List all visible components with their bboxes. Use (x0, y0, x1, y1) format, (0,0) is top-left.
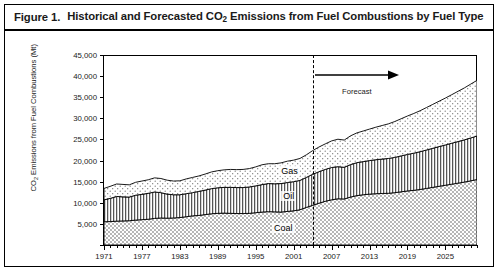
x-axis-tick (287, 245, 288, 248)
x-axis-tick (256, 245, 257, 250)
x-axis-tick (325, 245, 326, 248)
x-axis-tick-label: 2013 (361, 252, 378, 261)
y-axis-title: CO2 Emissions from Fuel Combustions (Mt) (29, 33, 39, 203)
x-axis-tick (180, 245, 181, 250)
x-axis-tick (294, 245, 295, 250)
forecast-annotation-label: Forecast (342, 87, 372, 96)
x-axis-tick (148, 245, 149, 248)
x-axis-tick (199, 245, 200, 248)
y-axis-tick-label: 30,000 (73, 114, 97, 123)
x-axis-tick (237, 245, 238, 248)
x-axis-tick (477, 245, 478, 248)
x-axis-tick (439, 245, 440, 248)
x-axis-tick (104, 245, 105, 250)
y-axis-tick-label: 45,000 (73, 51, 97, 60)
chart-area: CO2 Emissions from Fuel Combustions (Mt) (5, 31, 493, 266)
band-label-gas: Gas (279, 166, 300, 176)
x-axis-tick (161, 245, 162, 248)
figure-number: Figure 1. (14, 11, 60, 23)
x-axis-tick (319, 245, 320, 248)
x-axis-tick-label: 1971 (95, 252, 112, 261)
x-axis-tick (268, 245, 269, 248)
stacked-area-series (104, 55, 477, 245)
forecast-divider-line (313, 55, 314, 245)
x-axis-tick (142, 245, 143, 250)
y-axis-tick (100, 76, 104, 77)
y-axis-tick-label: 20,000 (73, 156, 97, 165)
x-axis-tick (300, 245, 301, 248)
x-axis-tick (433, 245, 434, 248)
x-axis-tick (363, 245, 364, 248)
x-axis-tick (155, 245, 156, 248)
x-axis-tick (464, 245, 465, 248)
x-axis-tick-label: 1983 (171, 252, 188, 261)
x-axis-tick (395, 245, 396, 248)
x-axis-tick (262, 245, 263, 248)
y-axis-tick (100, 118, 104, 119)
y-axis-tick (100, 97, 104, 98)
y-axis-tick-label: 35,000 (73, 93, 97, 102)
x-axis-tick (420, 245, 421, 248)
x-axis-tick (332, 245, 333, 250)
x-axis-tick (218, 245, 219, 250)
x-axis-tick (243, 245, 244, 248)
x-axis-tick (388, 245, 389, 248)
x-axis-tick (407, 245, 408, 250)
x-axis-tick (338, 245, 339, 248)
x-axis-tick (123, 245, 124, 248)
x-axis-tick (224, 245, 225, 248)
x-axis-tick (281, 245, 282, 248)
x-axis-tick (249, 245, 250, 248)
x-axis-tick (110, 245, 111, 248)
y-axis-tick (100, 55, 104, 56)
x-axis-tick-label: 2001 (285, 252, 302, 261)
x-axis-tick (344, 245, 345, 248)
y-axis-tick (100, 224, 104, 225)
y-axis-tick (100, 161, 104, 162)
figure-frame: Figure 1. Historical and Forecasted CO2 … (4, 4, 494, 267)
x-axis-tick (129, 245, 130, 248)
figure-title-suffix: Emissions from Fuel Combustions by Fuel … (227, 10, 483, 22)
y-axis-title-prefix: CO (29, 180, 38, 191)
y-axis-tick-label: 40,000 (73, 72, 97, 81)
x-axis-tick-label: 1989 (209, 252, 226, 261)
x-axis-tick (370, 245, 371, 250)
y-axis-tick (100, 139, 104, 140)
x-axis-tick (376, 245, 377, 248)
x-axis-tick (414, 245, 415, 248)
x-axis-tick (458, 245, 459, 248)
x-axis-tick (275, 245, 276, 248)
y-axis-tick-label: 25,000 (73, 135, 97, 144)
x-axis-tick (230, 245, 231, 248)
x-axis-tick (205, 245, 206, 248)
x-axis-tick-label: 2025 (437, 252, 454, 261)
x-axis-tick (136, 245, 137, 248)
x-axis-tick (117, 245, 118, 248)
x-axis-tick (426, 245, 427, 248)
x-axis-tick (445, 245, 446, 250)
y-axis-title-suffix: Emissions from Fuel Combustions (Mt) (29, 44, 38, 177)
y-axis-tick (100, 182, 104, 183)
x-axis-tick (471, 245, 472, 248)
x-axis-tick (186, 245, 187, 248)
forecast-arrow-icon (314, 69, 400, 81)
figure-title-prefix: Historical and Forecasted CO (67, 10, 222, 22)
x-axis-tick-label: 2007 (323, 252, 340, 261)
x-axis-tick-label: 2019 (399, 252, 416, 261)
band-label-oil: Oil (281, 191, 296, 201)
x-axis-tick (357, 245, 358, 248)
band-label-coal: Coal (272, 223, 295, 233)
x-axis-tick-label: 1995 (247, 252, 264, 261)
x-axis-tick (401, 245, 402, 248)
y-axis-tick-label: 10,000 (73, 198, 97, 207)
x-axis-tick-label: 1977 (133, 252, 150, 261)
y-axis-title-subscript: 2 (33, 177, 39, 180)
y-axis-tick-label: 5,000 (77, 219, 97, 228)
x-axis-tick (313, 245, 314, 248)
y-axis-tick-label: 15,000 (73, 177, 97, 186)
x-axis-tick (452, 245, 453, 248)
x-axis-tick (351, 245, 352, 248)
y-axis-tick (100, 203, 104, 204)
x-axis-tick (193, 245, 194, 248)
x-axis-tick (382, 245, 383, 248)
